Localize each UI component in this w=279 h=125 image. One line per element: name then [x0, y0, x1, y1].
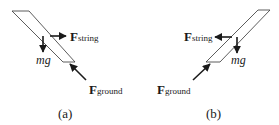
- ground-force-arrow-a: [70, 64, 86, 80]
- ground-force-label-a: Fground: [89, 82, 123, 97]
- string-force-label-b: Fstring: [184, 29, 213, 44]
- string-force-label-a: Fstring: [70, 29, 99, 44]
- gravity-label-a: mg: [36, 53, 51, 67]
- panel-a: Fstring mg Fground (a): [12, 11, 123, 121]
- panel-b: Fstring mg Fground (b): [157, 10, 270, 121]
- ground-force-label-b: Fground: [157, 82, 191, 97]
- caption-a: (a): [58, 106, 72, 121]
- caption-b: (b): [206, 106, 221, 121]
- free-body-diagrams: Fstring mg Fground (a) Fstring mg Fgroun…: [0, 0, 279, 125]
- ground-force-arrow-b: [193, 64, 210, 80]
- gravity-label-b: mg: [231, 53, 246, 67]
